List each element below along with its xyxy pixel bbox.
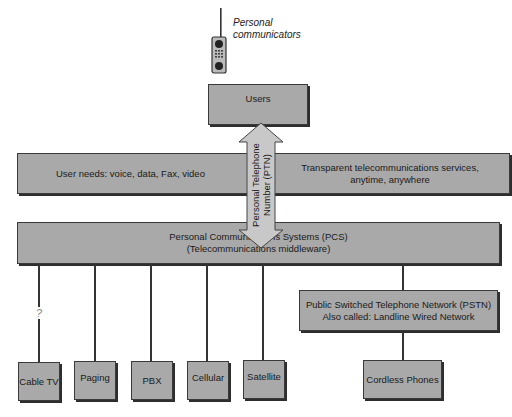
transparent-services-box: Transparent telecommunications services,…: [270, 153, 510, 194]
users-box: Users: [208, 84, 308, 125]
endpoint-paging: Paging: [74, 361, 116, 400]
connector-satellite: [262, 264, 264, 362]
pstn-box: Public Switched Telephone Network (PSTN)…: [299, 290, 498, 331]
mobile-phone-icon: [210, 6, 230, 76]
endpoint-pbx: PBX: [131, 361, 173, 400]
user-needs-label: User needs: voice, data, Fax, video: [56, 168, 205, 180]
connector-paging: [94, 264, 96, 362]
endpoint-cellular: Cellular: [187, 361, 229, 400]
pstn-label: Public Switched Telephone Network (PSTN)…: [306, 299, 491, 323]
connector-pbx: [150, 264, 152, 362]
cordless-phones-label: Cordless Phones: [366, 374, 438, 386]
connector-pstn: [402, 264, 404, 291]
users-label: Users: [246, 93, 271, 105]
connector-cordless: [402, 331, 404, 361]
user-needs-box: User needs: voice, data, Fax, video: [17, 153, 249, 194]
personal-communicators-label: Personal communicators: [233, 17, 301, 41]
endpoint-cable-tv: Cable TV: [18, 362, 60, 401]
cordless-phones-box: Cordless Phones: [363, 360, 442, 399]
unknown-link-marker: ?: [35, 307, 43, 319]
transparent-services-label: Transparent telecommunications services,…: [301, 162, 479, 186]
endpoint-satellite: Satellite: [243, 360, 285, 399]
connector-cellular: [206, 264, 208, 362]
